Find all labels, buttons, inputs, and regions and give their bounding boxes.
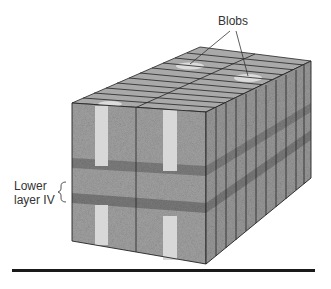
bottom-rule bbox=[12, 269, 315, 272]
cortex-block-diagram bbox=[0, 0, 331, 289]
blob-column-1 bbox=[95, 106, 108, 166]
blobs-label: Blobs bbox=[218, 14, 248, 28]
blob-column-1-lower bbox=[95, 205, 108, 245]
lower-layer-line1: Lower bbox=[14, 179, 62, 193]
lower-layer-iv-label: Lower layer IV bbox=[14, 179, 62, 207]
blob-column-2 bbox=[163, 110, 177, 171]
blob-column-2-lower bbox=[163, 216, 177, 260]
lower-layer-line2: layer IV bbox=[14, 193, 62, 207]
front-face bbox=[72, 103, 206, 264]
